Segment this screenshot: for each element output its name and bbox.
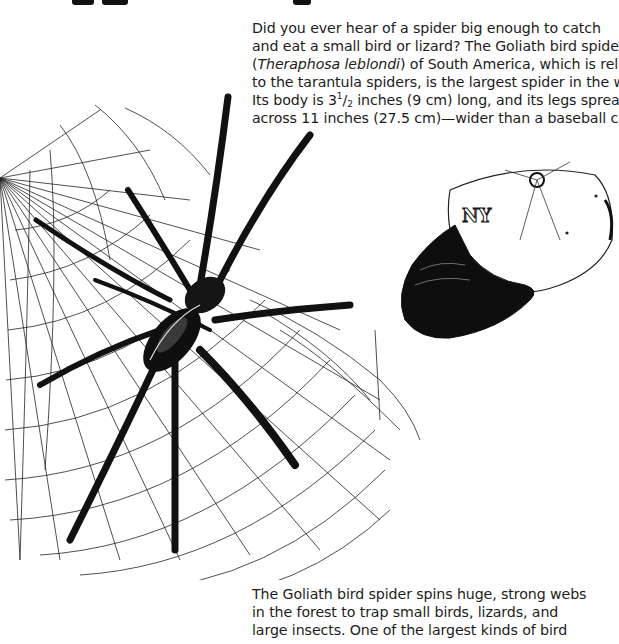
title-glyph-fragment — [102, 0, 128, 5]
spider-web — [0, 105, 390, 580]
second-line-3: large insects. One of the largest kinds … — [252, 621, 619, 639]
title-glyph-fragment — [72, 0, 94, 5]
spider-and-cap-illustration: NY — [0, 60, 619, 580]
intro-line-2: and eat a small bird or lizard? The Goli… — [252, 37, 619, 55]
title-glyph-fragment — [293, 0, 311, 5]
second-line-1: The Goliath bird spider spins huge, stro… — [252, 585, 619, 603]
cap-logo: NY — [462, 205, 492, 226]
page: Did you ever hear of a spider big enough… — [0, 0, 619, 644]
second-paragraph: The Goliath bird spider spins huge, stro… — [252, 585, 619, 639]
wrapped-prey — [250, 300, 420, 440]
intro-line-1: Did you ever hear of a spider big enough… — [252, 19, 619, 37]
baseball-cap: NY — [401, 162, 612, 338]
second-line-2: in the forest to trap small birds, lizar… — [252, 603, 619, 621]
clipped-title — [0, 0, 619, 8]
